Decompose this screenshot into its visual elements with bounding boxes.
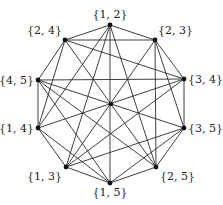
vertex-24 <box>63 38 68 43</box>
vertex-label-25: {2, 5} <box>160 170 195 183</box>
center-point <box>109 102 113 106</box>
vertex-25 <box>154 165 159 170</box>
vertices-layer <box>36 23 187 186</box>
edge-24-45 <box>38 40 65 80</box>
vertex-label-13: {1, 3} <box>27 170 62 183</box>
vertex-23 <box>153 38 158 43</box>
vertex-label-23: {2, 3} <box>158 24 193 37</box>
vertex-label-15: {1, 5} <box>93 186 128 199</box>
graph-canvas: {1, 2}{2, 3}{3, 4}{3, 5}{2, 5}{1, 5}{1, … <box>0 0 223 205</box>
vertex-15 <box>108 181 113 186</box>
edge-23-34 <box>155 40 184 79</box>
edge-12-24 <box>65 25 110 40</box>
edge-25-35 <box>156 128 184 167</box>
vertex-35 <box>182 126 187 131</box>
edge-15-25 <box>110 167 156 183</box>
edge-24-34 <box>65 40 184 79</box>
edge-12-23 <box>110 25 155 40</box>
vertex-label-35: {3, 5} <box>188 122 223 135</box>
vertex-14 <box>36 126 41 131</box>
vertex-label-24: {2, 4} <box>27 24 62 37</box>
vertex-label-34: {3, 4} <box>188 73 223 86</box>
edge-23-35 <box>155 40 184 128</box>
vertex-label-45: {4, 5} <box>0 74 34 87</box>
edge-25-45 <box>38 80 156 167</box>
vertex-13 <box>64 165 69 170</box>
edge-23-25 <box>155 40 156 167</box>
vertex-label-14: {1, 4} <box>0 122 34 135</box>
edge-15-45 <box>38 80 110 183</box>
graph-diagram: {1, 2}{2, 3}{3, 4}{3, 5}{2, 5}{1, 5}{1, … <box>0 0 223 205</box>
edge-13-14 <box>38 128 66 167</box>
edge-13-15 <box>66 167 110 183</box>
edge-13-35 <box>66 128 184 167</box>
vertex-34 <box>182 77 187 82</box>
vertex-12 <box>108 23 113 28</box>
vertex-45 <box>36 78 41 83</box>
vertex-label-12: {1, 2} <box>93 8 128 21</box>
edge-34-45 <box>38 79 184 80</box>
